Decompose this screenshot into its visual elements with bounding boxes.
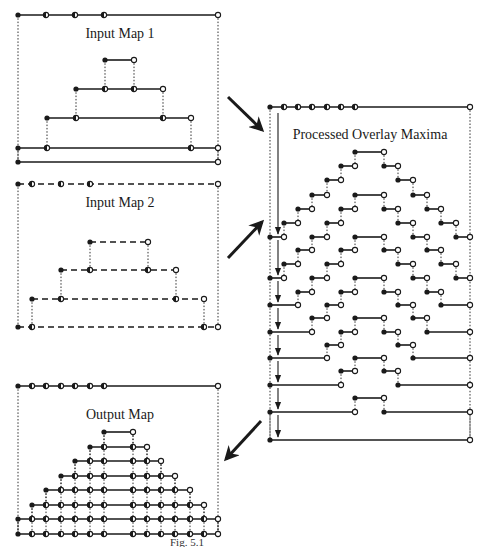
processed-overlay-maxima-panel	[267, 104, 472, 442]
open-endpoint-icon	[281, 234, 286, 239]
open-endpoint-icon	[352, 206, 357, 211]
filled-endpoint-icon	[324, 302, 329, 307]
filled-endpoint-icon	[295, 289, 300, 294]
filled-endpoint-icon	[281, 220, 286, 225]
open-endpoint-icon	[215, 383, 220, 388]
filled-endpoint-icon	[352, 395, 357, 400]
filled-endpoint-icon	[381, 329, 386, 334]
open-endpoint-icon	[467, 329, 472, 334]
open-endpoint-icon	[295, 220, 300, 225]
filled-endpoint-icon	[15, 516, 20, 521]
filled-endpoint-icon	[410, 192, 415, 197]
open-endpoint-icon	[324, 234, 329, 239]
open-endpoint-icon	[309, 289, 314, 294]
filled-endpoint-icon	[15, 324, 20, 329]
filled-endpoint-icon	[281, 261, 286, 266]
overlay-maxima-diagram: Input Map 1 Input Map 2 Processed Overla…	[0, 0, 485, 547]
open-endpoint-icon	[295, 261, 300, 266]
filled-endpoint-icon	[381, 247, 386, 252]
filled-endpoint-icon	[267, 234, 272, 239]
filled-endpoint-icon	[267, 382, 272, 387]
output-map-title: Output Map	[86, 407, 154, 422]
open-endpoint-icon	[381, 149, 386, 154]
filled-endpoint-icon	[87, 444, 92, 449]
filled-endpoint-icon	[338, 206, 343, 211]
open-endpoint-icon	[324, 315, 329, 320]
open-endpoint-icon	[215, 516, 220, 521]
filled-endpoint-icon	[381, 368, 386, 373]
filled-endpoint-icon	[453, 275, 458, 280]
map1-to-processed-arrow-icon	[228, 97, 262, 130]
filled-endpoint-icon	[352, 315, 357, 320]
open-endpoint-icon	[467, 275, 472, 280]
filled-endpoint-icon	[338, 368, 343, 373]
open-endpoint-icon	[424, 315, 429, 320]
filled-endpoint-icon	[395, 220, 400, 225]
input-map-2-title: Input Map 2	[85, 195, 154, 210]
open-endpoint-icon	[395, 247, 400, 252]
open-endpoint-icon	[352, 368, 357, 373]
open-endpoint-icon	[395, 329, 400, 334]
open-endpoint-icon	[215, 181, 220, 186]
open-endpoint-icon	[395, 289, 400, 294]
filled-endpoint-icon	[15, 145, 20, 150]
open-endpoint-icon	[215, 145, 220, 150]
open-endpoint-icon	[215, 12, 220, 17]
filled-endpoint-icon	[44, 115, 49, 120]
open-endpoint-icon	[160, 86, 165, 91]
open-endpoint-icon	[295, 302, 300, 307]
filled-endpoint-icon	[309, 275, 314, 280]
open-endpoint-icon	[188, 115, 193, 120]
open-endpoint-icon	[281, 275, 286, 280]
open-endpoint-icon	[410, 342, 415, 347]
open-endpoint-icon	[338, 220, 343, 225]
open-endpoint-icon	[309, 206, 314, 211]
filled-endpoint-icon	[15, 383, 20, 388]
filled-endpoint-icon	[338, 329, 343, 334]
open-endpoint-icon	[395, 206, 400, 211]
filled-endpoint-icon	[395, 177, 400, 182]
open-endpoint-icon	[338, 177, 343, 182]
open-endpoint-icon	[324, 355, 329, 360]
open-endpoint-icon	[338, 382, 343, 387]
open-endpoint-icon	[381, 355, 386, 360]
open-endpoint-icon	[467, 234, 472, 239]
processed-overlay-maxima-title: Processed Overlay Maxima	[293, 127, 449, 142]
open-endpoint-icon	[395, 368, 400, 373]
filled-endpoint-icon	[102, 57, 107, 62]
filled-endpoint-icon	[410, 234, 415, 239]
filled-endpoint-icon	[438, 261, 443, 266]
filled-endpoint-icon	[267, 355, 272, 360]
open-endpoint-icon	[410, 177, 415, 182]
open-endpoint-icon	[453, 220, 458, 225]
filled-endpoint-icon	[58, 267, 63, 272]
open-endpoint-icon	[338, 342, 343, 347]
filled-endpoint-icon	[424, 247, 429, 252]
open-endpoint-icon	[424, 192, 429, 197]
open-endpoint-icon	[324, 192, 329, 197]
open-endpoint-icon	[395, 163, 400, 168]
filled-endpoint-icon	[73, 86, 78, 91]
filled-endpoint-icon	[453, 234, 458, 239]
open-endpoint-icon	[467, 302, 472, 307]
open-endpoint-icon	[438, 289, 443, 294]
filled-endpoint-icon	[15, 159, 20, 164]
filled-endpoint-icon	[87, 239, 92, 244]
filled-endpoint-icon	[29, 502, 34, 507]
filled-endpoint-icon	[267, 302, 272, 307]
open-endpoint-icon	[410, 302, 415, 307]
open-endpoint-icon	[438, 206, 443, 211]
filled-endpoint-icon	[15, 12, 20, 17]
filled-endpoint-icon	[338, 289, 343, 294]
filled-endpoint-icon	[381, 163, 386, 168]
filled-endpoint-icon	[29, 296, 34, 301]
filled-endpoint-icon	[324, 342, 329, 347]
open-endpoint-icon	[467, 437, 472, 442]
open-endpoint-icon	[438, 247, 443, 252]
filled-endpoint-icon	[424, 289, 429, 294]
open-endpoint-icon	[309, 329, 314, 334]
filled-endpoint-icon	[410, 355, 415, 360]
open-endpoint-icon	[173, 267, 178, 272]
filled-endpoint-icon	[424, 206, 429, 211]
open-endpoint-icon	[352, 163, 357, 168]
